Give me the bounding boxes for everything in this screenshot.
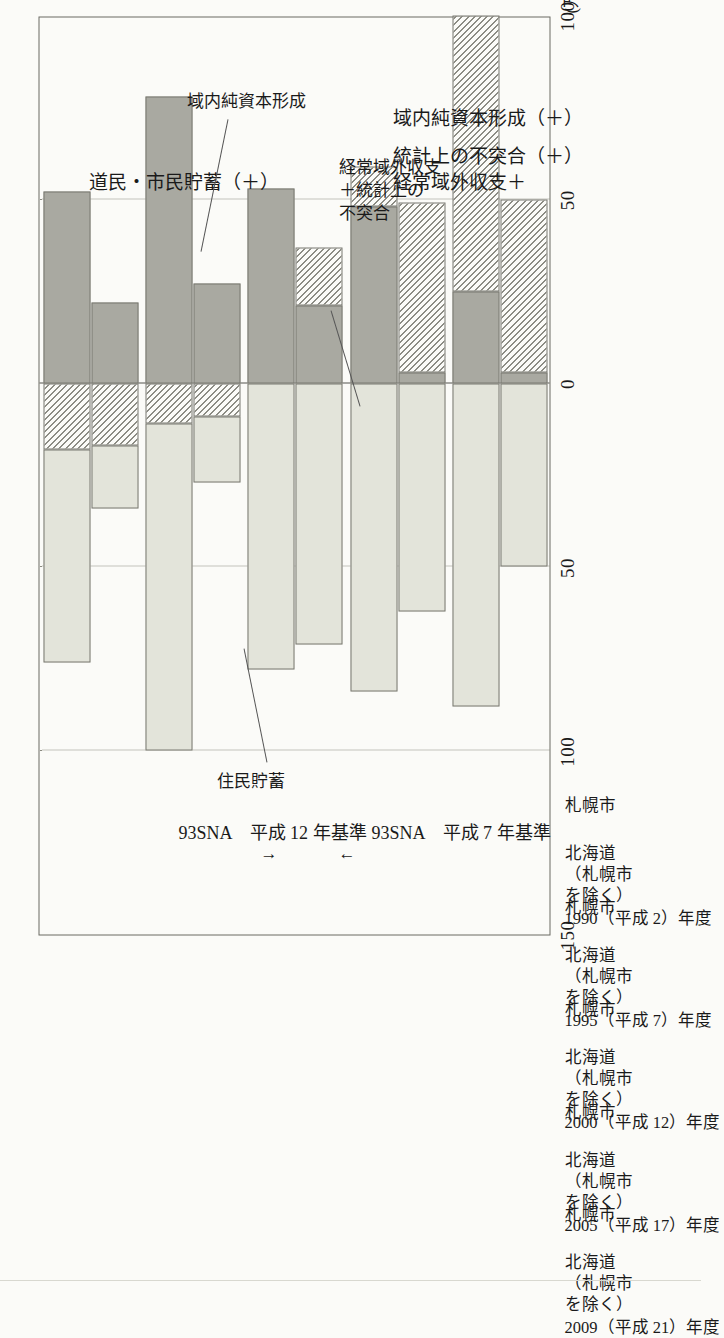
bar-segment [43, 191, 90, 382]
basis-label-left: 93SNA 平成 7 年基準 [371, 817, 550, 843]
bar-segment [43, 449, 90, 662]
bar-group [39, 17, 141, 934]
category-label-line: 北海道 [564, 1047, 724, 1068]
category-label-line: 札幌市 [564, 896, 724, 917]
bar-segment [193, 383, 240, 416]
axis-title-upper: 道民・市民貯蓄（＋） [88, 169, 278, 195]
category-label-line: （札幌市 [564, 1170, 724, 1191]
category-label: 札幌市 [564, 1101, 724, 1122]
annotation-keijou-ikigai: 経常域外収支 ＋統計上の 不突合 [338, 156, 440, 225]
bar-segment [91, 302, 138, 383]
category-label-line: 札幌市 [564, 1101, 724, 1122]
bar-segment [500, 199, 547, 372]
annotation-line-1: 経常域外収支 [338, 157, 440, 176]
category-label: 北海道（札幌市を除く）2009（平成 21）年度 [564, 1251, 724, 1337]
axis-unit-label: (万円) [556, 0, 581, 13]
bar-segment [247, 188, 294, 383]
bar-group [141, 17, 243, 934]
annotation-line-2: ＋統計上の [338, 180, 423, 199]
category-label: 札幌市 [564, 794, 724, 815]
bar-group [244, 17, 346, 934]
bar-segment [295, 383, 342, 644]
category-label-line: （札幌市 [564, 1272, 724, 1293]
bar-segment [452, 383, 499, 706]
annotation-ikinai-junshihon: 域内純資本形成 [186, 90, 305, 112]
category-label-line: 札幌市 [564, 1203, 724, 1224]
y-tick-label: 50 [556, 537, 578, 597]
category-label-line: 北海道 [564, 842, 724, 863]
bar-segment [193, 283, 240, 382]
category-label-line: を除く） [564, 1294, 724, 1315]
basis-label-right: 93SNA 平成 12 年基準 [178, 817, 366, 843]
category-label-line: 札幌市 [564, 999, 724, 1020]
y-tick-label: 100 [556, 721, 578, 781]
category-label-line: （札幌市 [564, 965, 724, 986]
bar-segment [145, 96, 192, 383]
bar-segment [295, 247, 342, 306]
bar-segment [43, 383, 90, 449]
y-tick-label: 50 [556, 170, 578, 230]
bar-segment [398, 202, 445, 371]
bar-segment [452, 291, 499, 383]
bar-segment [500, 372, 547, 383]
annotation-juumin-chochiku: 住民貯蓄 [216, 770, 284, 792]
category-label-line: 北海道 [564, 1251, 724, 1272]
bar-segment [350, 206, 397, 382]
axis-title-lower-3: 域内純資本形成（＋） [392, 105, 582, 131]
annotation-line-3: 不突合 [338, 203, 389, 222]
arrow-right-icon: → [260, 843, 277, 863]
bar-segment [247, 383, 294, 670]
bar-segment [398, 372, 445, 383]
bar-segment [91, 445, 138, 507]
category-label-line: （札幌市 [564, 863, 724, 884]
category-label: 札幌市 [564, 896, 724, 917]
bar-segment [398, 383, 445, 611]
bar-segment [350, 383, 397, 692]
bar-segment [145, 383, 192, 423]
bar-segment [193, 416, 240, 482]
bar-segment [500, 383, 547, 567]
y-tick-label: 0 [556, 354, 578, 414]
period-label: 2009（平成 21）年度 [564, 1317, 724, 1338]
category-label: 札幌市 [564, 999, 724, 1020]
category-label-line: （札幌市 [564, 1068, 724, 1089]
bar-segment [145, 423, 192, 750]
category-label-line: 札幌市 [564, 794, 724, 815]
bar-segment [295, 305, 342, 382]
arrow-left-icon: ← [338, 843, 355, 863]
page-bottom-rule [0, 1280, 701, 1281]
category-label: 札幌市 [564, 1203, 724, 1224]
category-label-line: 北海道 [564, 1149, 724, 1170]
bar-segment [91, 383, 138, 445]
category-label-line: 北海道 [564, 944, 724, 965]
